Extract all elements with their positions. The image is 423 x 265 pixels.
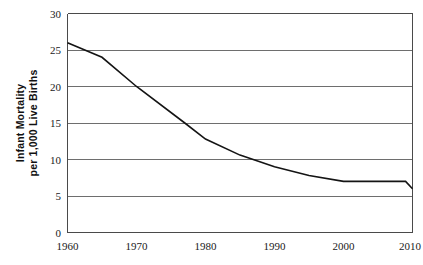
y-axis-title: Infant Mortality per 1,000 Live Births (14, 70, 39, 177)
y-axis-tick-labels: 30 25 20 15 10 5 0 (50, 8, 62, 239)
x-tick-label-2010: 2010 (399, 240, 422, 252)
y-tick-label-10: 10 (50, 154, 62, 166)
x-tick-label-1960: 1960 (57, 240, 80, 252)
chart-canvas: 30 25 20 15 10 5 0 1960 1970 1980 1990 2… (0, 0, 423, 265)
x-tick-label-1970: 1970 (126, 240, 149, 252)
y-axis-title-line2: per 1,000 Live Births (27, 70, 39, 177)
y-tick-label-25: 25 (50, 44, 62, 56)
x-tick-label-1980: 1980 (195, 240, 218, 252)
x-tick-label-2000: 2000 (333, 240, 356, 252)
y-tick-label-5: 5 (56, 190, 62, 202)
line-chart: 30 25 20 15 10 5 0 1960 1970 1980 1990 2… (0, 0, 423, 265)
x-tick-label-1990: 1990 (264, 240, 287, 252)
y-tick-label-20: 20 (50, 81, 62, 93)
y-tick-label-15: 15 (50, 117, 62, 129)
y-tick-label-30: 30 (50, 8, 62, 20)
y-axis-title-line1: Infant Mortality (14, 84, 26, 162)
x-axis-tick-labels: 1960 1970 1980 1990 2000 2010 (57, 240, 422, 252)
y-tick-label-0: 0 (56, 227, 62, 239)
